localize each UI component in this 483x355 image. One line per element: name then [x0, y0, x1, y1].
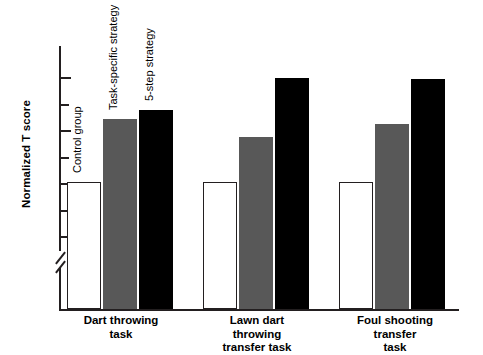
bar-task-specific-foul-shooting[interactable]: [375, 124, 409, 309]
bar-group-dart-throwing: Control group Task-specific strategy 5-s…: [67, 46, 175, 309]
category-label-lawn-dart: Lawn dart throwing transfer task: [197, 314, 317, 355]
bar-task-specific-dart[interactable]: [103, 119, 137, 309]
series-label-control-group: Control group: [71, 106, 83, 173]
bar-control-group-dart[interactable]: [67, 182, 101, 309]
figure-caption-clipped: [8, 337, 478, 343]
series-label-task-specific: Task-specific strategy: [107, 5, 119, 110]
category-label-dart-throwing-line1: Dart throwing: [61, 314, 181, 328]
category-label-lawn-dart-line3: transfer task: [197, 341, 317, 355]
bar-control-group-foul-shooting[interactable]: [339, 182, 373, 309]
bar-control-group-lawn-dart[interactable]: [203, 182, 237, 309]
x-axis-line: [59, 309, 459, 311]
series-label-5-step: 5-step strategy: [143, 28, 155, 101]
category-label-foul-shooting-line3: task: [333, 341, 457, 355]
bar-group-lawn-dart: [203, 46, 311, 309]
bar-5-step-dart[interactable]: [139, 110, 173, 309]
bar-5-step-lawn-dart[interactable]: [275, 78, 309, 309]
plot-area: Control group Task-specific strategy 5-s…: [61, 46, 459, 309]
category-label-foul-shooting-line1: Foul shooting: [333, 314, 457, 328]
bar-task-specific-lawn-dart[interactable]: [239, 137, 273, 309]
category-label-lawn-dart-line1: Lawn dart: [197, 314, 317, 328]
bar-group-foul-shooting: [339, 46, 447, 309]
category-label-foul-shooting: Foul shooting transfer task: [333, 314, 457, 355]
y-axis-ticks: 60 50 40 30 0: [0, 0, 70, 343]
bar-5-step-foul-shooting[interactable]: [411, 79, 445, 309]
